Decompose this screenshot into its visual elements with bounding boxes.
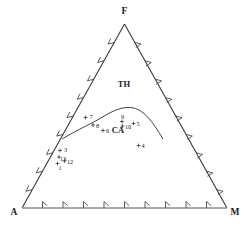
sample-point-1: 1 <box>56 162 62 171</box>
point-label-10: 10 <box>125 123 131 130</box>
point-label-9: 9 <box>121 113 124 120</box>
apex-m-label: M <box>231 207 240 217</box>
sample-point-4: 4 <box>137 142 145 149</box>
point-label-6: 6 <box>106 127 109 134</box>
afm-ternary-diagram: 11312378691054 FAMTHCA <box>0 0 249 231</box>
tick-edge-am-barb-9 <box>207 202 212 206</box>
point-label-5: 5 <box>137 120 140 127</box>
point-label-8: 8 <box>96 122 99 129</box>
tick-edge-am-barb-2 <box>63 202 68 206</box>
sample-point-7: 7 <box>84 113 93 120</box>
point-label-7: 7 <box>90 113 93 120</box>
tick-edge-am-barb-8 <box>186 202 191 206</box>
tick-edge-am-barb-4 <box>104 202 109 206</box>
sample-point-6: 6 <box>101 127 109 134</box>
tick-edge-am-barb-7 <box>166 202 171 206</box>
triangle-frame <box>22 24 227 208</box>
field-th-label: TH <box>118 79 131 89</box>
point-label-13: 13 <box>60 155 66 162</box>
tick-edge-am-barb-3 <box>84 202 89 206</box>
point-label-12: 12 <box>67 158 73 165</box>
sample-point-3: 3 <box>58 146 67 153</box>
chart-labels-group: FAMTHCA <box>11 6 240 217</box>
tick-edge-am-barb-6 <box>145 202 150 206</box>
sample-point-9: 9 <box>120 113 124 124</box>
apex-f-label: F <box>122 6 128 16</box>
sample-point-5: 5 <box>132 120 140 127</box>
point-label-4: 4 <box>142 142 145 149</box>
point-label-1: 1 <box>59 164 62 171</box>
ternary-plot-svg: 11312378691054 FAMTHCA <box>0 0 249 231</box>
sample-points-group: 11312378691054 <box>56 113 145 171</box>
tick-edge-am-barb-1 <box>43 202 48 206</box>
apex-a-label: A <box>11 207 18 217</box>
tick-edge-am-barb-5 <box>125 202 130 206</box>
field-ca-label: CA <box>112 125 125 135</box>
point-label-3: 3 <box>64 146 67 153</box>
